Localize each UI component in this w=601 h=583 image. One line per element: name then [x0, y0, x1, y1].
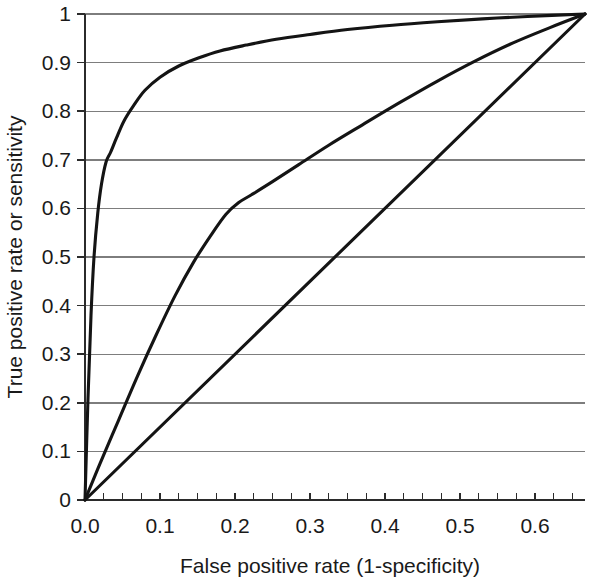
x-tick-label: 0.5 [445, 514, 474, 537]
y-tick-label: 0.6 [42, 196, 71, 219]
x-axis-tick-labels: 0.00.10.20.30.40.50.6 [70, 514, 549, 537]
x-axis-title: False positive rate (1-specificity) [180, 554, 480, 577]
x-tick-label: 0.0 [70, 514, 99, 537]
y-tick-label: 0.4 [42, 294, 72, 317]
y-tick-label: 1 [59, 2, 71, 25]
y-tick-label: 0.2 [42, 391, 71, 414]
y-axis-title: True positive rate or sensitivity [3, 115, 26, 398]
x-tick-label: 0.3 [295, 514, 324, 537]
gridlines [85, 14, 585, 451]
y-tick-label: 0 [59, 488, 71, 511]
y-tick-label: 0.8 [42, 99, 71, 122]
y-axis-tick-labels: 00.10.20.30.40.50.60.70.80.91 [42, 2, 72, 511]
roc-plot-svg: 00.10.20.30.40.50.60.70.80.91 0.00.10.20… [0, 0, 601, 583]
y-tick-label: 0.9 [42, 51, 71, 74]
y-tick-label: 0.3 [42, 342, 71, 365]
y-tick-label: 0.1 [42, 439, 71, 462]
x-tick-label: 0.4 [370, 514, 400, 537]
x-tick-label: 0.2 [220, 514, 249, 537]
x-tick-label: 0.6 [520, 514, 549, 537]
axis-tick-marks [77, 14, 85, 500]
y-tick-label: 0.7 [42, 148, 71, 171]
roc-chart: 00.10.20.30.40.50.60.70.80.91 0.00.10.20… [0, 0, 601, 583]
y-tick-label: 0.5 [42, 245, 71, 268]
x-tick-label: 0.1 [145, 514, 174, 537]
